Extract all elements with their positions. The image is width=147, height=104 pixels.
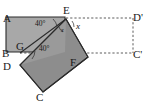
vertex-label-B: B	[2, 47, 9, 59]
vertex-label-G: G	[16, 40, 24, 52]
geometry-figure: A E D' B G C' D F C 40° 40° x x	[0, 0, 147, 104]
vertex-label-F: F	[70, 56, 76, 68]
unknown-angle-label-exterior: x	[75, 21, 80, 31]
unknown-angle-label-interior: x	[60, 27, 64, 33]
angle-label-upper: 40°	[35, 19, 46, 28]
vertex-label-A: A	[3, 12, 11, 24]
figure-canvas: A E D' B G C' D F C 40° 40° x x	[0, 0, 147, 104]
vertex-label-D-prime: D'	[133, 11, 143, 23]
vertex-label-C-prime: C'	[133, 48, 142, 60]
vertex-label-C: C	[36, 91, 43, 103]
angle-label-lower: 40°	[39, 44, 50, 53]
vertex-label-E: E	[63, 4, 70, 16]
arc-x-exterior	[72, 21, 74, 27]
vertex-label-D: D	[3, 60, 11, 72]
